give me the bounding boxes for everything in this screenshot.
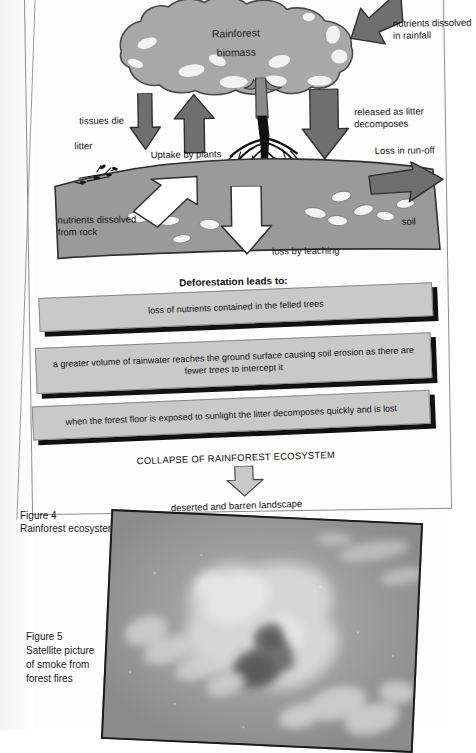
label-tissues-die: tissues die [79, 115, 124, 128]
arrow-tissues-die [128, 93, 163, 153]
label-nutrients-rainfall: nutrients dissolved in rainfall [393, 17, 472, 42]
label-released-as-litter: released as litter decomposes [354, 105, 424, 130]
arrow-released-as-litter [300, 88, 351, 161]
label-nutrients-from-rock: nutrients dissolved from rock [57, 213, 136, 238]
arrow-uptake-by-plants [172, 92, 217, 155]
consequence-bar-2-wrap: a greater volume of rainwater reaches th… [35, 332, 433, 394]
arrow-nutrients-from-rock [131, 175, 202, 230]
figure5-caption-line4: forest fires [26, 672, 94, 686]
figure4-caption-line1: Figure 4 [20, 509, 116, 522]
consequence-bar-3-wrap: when the forest floor is exposed to sunl… [32, 390, 431, 441]
figure4-caption-line2: Rainforest ecosystem [20, 522, 116, 535]
figure5-caption-line3: of smoke from [26, 658, 94, 672]
consequence-bar-3: when the forest floor is exposed to sunl… [32, 390, 431, 441]
label-loss-by-leaching: loss by leaching [272, 245, 340, 258]
figure5-caption: Figure 5 Satellite picture of smoke from… [26, 630, 94, 686]
consequence-bar-2: a greater volume of rainwater reaches th… [35, 332, 433, 394]
label-loss-in-run-off: Loss in run-off [375, 144, 435, 157]
label-uptake-by-plants: Uptake by plants [151, 148, 222, 161]
figure5-caption-line2: Satellite picture [26, 644, 94, 658]
figure4-diagram: Rainforest biomass [20, 0, 455, 513]
figure4-caption: Figure 4 Rainforest ecosystem [20, 509, 116, 535]
figure5-caption-line1: Figure 5 [26, 630, 94, 644]
label-litter: litter [74, 140, 92, 152]
arrow-loss-in-run-off [367, 161, 446, 208]
label-soil: soil [402, 216, 416, 228]
figure5-satellite-photo [101, 509, 423, 753]
arrow-loss-by-leaching [219, 186, 274, 257]
arrow-collapse-to-outcome [223, 465, 268, 498]
